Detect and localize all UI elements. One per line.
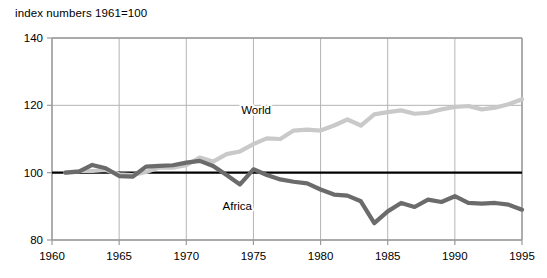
x-tick-label: 1970 bbox=[173, 250, 199, 262]
series-annotations: WorldWorldAfricaAfrica bbox=[223, 104, 271, 212]
x-tick-label: 1985 bbox=[375, 250, 401, 262]
y-tick-label: 100 bbox=[24, 167, 43, 179]
x-tick-label: 1980 bbox=[308, 250, 334, 262]
x-tick-label: 1975 bbox=[241, 250, 267, 262]
series-label-africa: Africa bbox=[223, 200, 253, 212]
x-tick-label: 1990 bbox=[442, 250, 468, 262]
series-line-africa bbox=[65, 161, 522, 223]
x-tick-label: 1965 bbox=[106, 250, 132, 262]
series-line-world bbox=[65, 99, 522, 175]
y-tick-label: 80 bbox=[30, 234, 43, 246]
axis-lines bbox=[52, 38, 522, 240]
series-label-world: World bbox=[241, 104, 271, 116]
chart-plot-area: 80100120140 1960196519701975198019851990… bbox=[0, 0, 547, 278]
chart-container: index numbers 1961=100 80100120140 19601… bbox=[0, 0, 547, 278]
x-tick-label: 1960 bbox=[39, 250, 65, 262]
y-tick-label: 140 bbox=[24, 32, 43, 44]
data-series bbox=[65, 99, 522, 223]
y-tick-label: 120 bbox=[24, 99, 43, 111]
x-tick-label: 1995 bbox=[509, 250, 535, 262]
x-tick-labels: 19601965197019751980198519901995 bbox=[39, 240, 535, 262]
y-tick-labels: 80100120140 bbox=[24, 32, 52, 246]
grid-lines bbox=[52, 38, 522, 240]
